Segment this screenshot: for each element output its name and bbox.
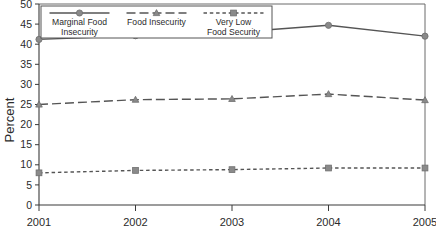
chart-figure: 05101520253035404550 2001200220032004200… <box>0 0 436 235</box>
y-tick-label: 20 <box>20 118 32 130</box>
x-tick-label: 2001 <box>27 216 51 228</box>
data-point-marker <box>422 33 428 39</box>
data-point-marker <box>325 22 331 28</box>
y-tick-label: 10 <box>20 158 32 170</box>
x-tick-label: 2003 <box>220 216 244 228</box>
y-axis-label: Percent <box>2 97 17 142</box>
legend-label-line2: Insecurity <box>61 27 98 37</box>
line-chart: 05101520253035404550 2001200220032004200… <box>0 0 436 235</box>
y-tick-label: 25 <box>20 98 32 110</box>
data-point-marker <box>229 167 235 173</box>
data-series <box>36 91 429 107</box>
legend-label: Food Insecurity <box>127 17 186 27</box>
data-point-marker <box>133 168 139 174</box>
y-tick-label: 40 <box>20 38 32 50</box>
data-point-marker <box>422 165 428 171</box>
data-point-marker <box>231 10 237 16</box>
x-axis-ticks: 20012002200320042005 <box>27 205 436 228</box>
x-tick-label: 2002 <box>123 216 147 228</box>
y-tick-label: 35 <box>20 58 32 70</box>
data-series <box>36 165 428 176</box>
y-axis-ticks: 05101520253035404550 <box>20 0 39 211</box>
legend-label: Marginal Food <box>52 17 107 27</box>
legend-label: Very Low <box>216 17 252 27</box>
y-tick-label: 5 <box>26 179 32 191</box>
data-point-marker <box>326 165 332 171</box>
data-point-marker <box>76 10 82 16</box>
y-tick-label: 30 <box>20 78 32 90</box>
y-tick-label: 15 <box>20 138 32 150</box>
x-tick-label: 2005 <box>413 216 436 228</box>
legend-label-line2: Food Security <box>207 27 261 37</box>
y-tick-label: 45 <box>20 18 32 30</box>
y-tick-label: 0 <box>26 199 32 211</box>
data-point-marker <box>36 170 42 176</box>
data-series-group <box>36 22 429 176</box>
x-tick-label: 2004 <box>316 216 340 228</box>
chart-legend: Marginal FoodInsecurityFood InsecurityVe… <box>41 6 272 38</box>
y-tick-label: 50 <box>20 0 32 10</box>
